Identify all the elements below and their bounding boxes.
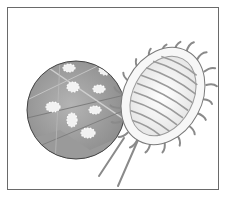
magnified-leaf-inset — [27, 60, 125, 170]
mealybug-illustration — [0, 0, 231, 199]
